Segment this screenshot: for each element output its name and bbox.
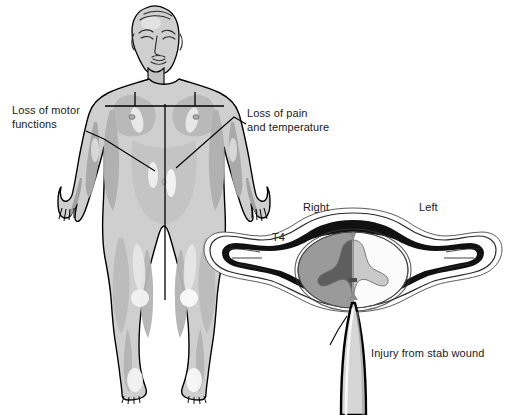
label-loss-of-motor-functions: Loss of motor functions <box>12 104 80 131</box>
medical-illustration-figure: Loss of motor functions Loss of pain and… <box>0 0 511 415</box>
label-side-left: Left <box>419 201 438 215</box>
label-side-right: Right <box>303 201 329 215</box>
human-body-group <box>58 6 270 404</box>
vertebra-cross-section-group <box>204 208 502 312</box>
spinal-cord <box>298 232 408 308</box>
label-injury-from-stab-wound: Injury from stab wound <box>371 347 484 361</box>
label-vertebral-level-t4: T4 <box>272 231 285 245</box>
label-loss-of-pain-and-temperature: Loss of pain and temperature <box>247 107 329 134</box>
